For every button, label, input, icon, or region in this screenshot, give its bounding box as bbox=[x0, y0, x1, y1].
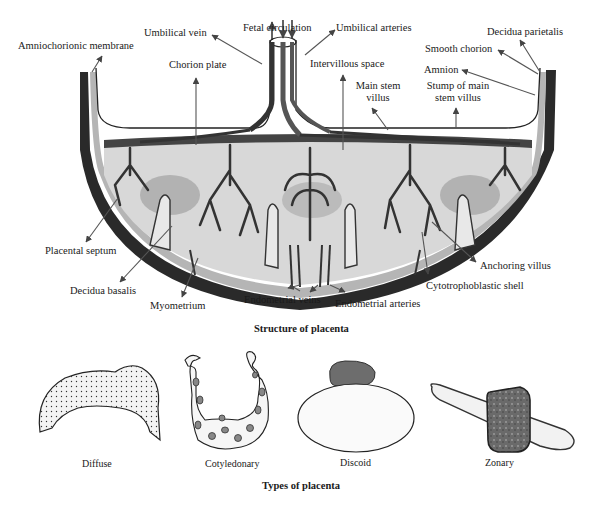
label-amnion: Amnion bbox=[424, 64, 458, 76]
zonary-placenta-illustration bbox=[431, 384, 574, 452]
label-amniochorionic-membrane: Amniochorionic membrane bbox=[18, 40, 134, 52]
label-umbilical-vein: Umbilical vein bbox=[144, 27, 207, 39]
umbilical-cord bbox=[250, 20, 330, 135]
label-placental-septum: Placental septum bbox=[45, 245, 116, 257]
label-type-cotyledonary: Cotyledonary bbox=[205, 458, 259, 469]
label-stump-of-main-stem-villus: Stump of main stem villus bbox=[422, 80, 494, 104]
label-main-stem-villus: Main stem villus bbox=[348, 80, 408, 104]
label-intervillous-space: Intervillous space bbox=[310, 58, 384, 70]
cotyledonary-placenta-illustration bbox=[185, 352, 268, 449]
label-chorion-plate: Chorion plate bbox=[169, 59, 226, 71]
discoid-placenta-illustration bbox=[298, 361, 414, 452]
label-endometrial-arteries: Endometrial arteries bbox=[335, 298, 420, 310]
label-smooth-chorion: Smooth chorion bbox=[425, 43, 492, 55]
label-anchoring-villus: Anchoring villus bbox=[480, 260, 551, 272]
label-type-discoid: Discoid bbox=[340, 457, 371, 468]
label-myometrium: Myometrium bbox=[150, 300, 205, 312]
label-type-zonary: Zonary bbox=[485, 457, 514, 468]
label-decidua-parietalis: Decidua parietalis bbox=[487, 26, 563, 38]
label-endometrial-veins: Endometrial veins bbox=[244, 294, 321, 306]
label-fetal-circulation: Fetal circulation bbox=[243, 22, 312, 34]
label-umbilical-arteries: Umbilical arteries bbox=[336, 22, 412, 34]
label-cytotrophoblastic-shell: Cytotrophoblastic shell bbox=[426, 280, 524, 292]
diffuse-placenta-illustration bbox=[39, 366, 160, 440]
label-type-diffuse: Diffuse bbox=[82, 458, 112, 469]
caption-structure-of-placenta: Structure of placenta bbox=[254, 323, 349, 334]
caption-types-of-placenta: Types of placenta bbox=[262, 480, 340, 491]
label-decidua-basalis: Decidua basalis bbox=[70, 285, 136, 297]
